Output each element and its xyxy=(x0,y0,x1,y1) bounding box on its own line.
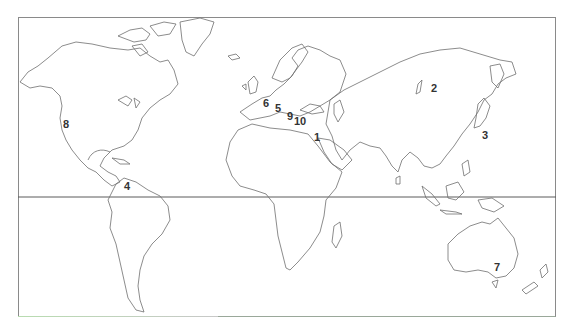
great-lakes xyxy=(118,96,140,108)
scandinavia xyxy=(272,44,308,82)
philippines xyxy=(462,160,470,176)
europe xyxy=(240,46,346,120)
south-america xyxy=(108,178,170,312)
kamchatka xyxy=(490,64,504,88)
java xyxy=(440,210,462,214)
map-label-4: 4 xyxy=(124,181,130,192)
japan xyxy=(474,98,490,128)
tasmania xyxy=(492,280,498,288)
madagascar xyxy=(332,222,342,248)
map-label-10: 10 xyxy=(294,116,306,127)
sumatra xyxy=(422,186,440,206)
greenland xyxy=(180,18,214,56)
caspian-sea xyxy=(334,100,344,122)
lake-baikal xyxy=(416,80,422,94)
british-isles xyxy=(242,76,258,94)
north-america xyxy=(20,42,178,186)
asia xyxy=(326,48,516,172)
map-label-1: 1 xyxy=(314,132,320,143)
iceland xyxy=(228,54,240,60)
world-map xyxy=(0,0,572,335)
map-label-2: 2 xyxy=(431,83,437,94)
new-zealand xyxy=(522,264,548,294)
map-label-5: 5 xyxy=(275,103,281,114)
map-label-7: 7 xyxy=(494,262,500,273)
arabian-peninsula xyxy=(318,138,352,170)
canadian-islands xyxy=(118,22,176,56)
map-label-9: 9 xyxy=(287,111,293,122)
cuba xyxy=(112,158,130,164)
sri-lanka xyxy=(396,176,400,184)
australia xyxy=(448,218,518,278)
map-label-3: 3 xyxy=(482,130,488,141)
map-label-6: 6 xyxy=(263,98,269,109)
new-guinea xyxy=(478,198,504,212)
map-label-8: 8 xyxy=(63,119,69,130)
